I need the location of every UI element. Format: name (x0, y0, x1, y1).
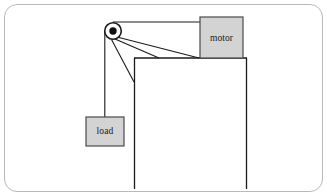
brace-upper-line (117, 37, 199, 58)
pulley-system-diagram: motor load (0, 0, 327, 196)
pulley-hub-icon (109, 27, 116, 34)
load-label: load (97, 126, 114, 136)
figure-root: motor load (0, 0, 327, 196)
motor-label: motor (210, 33, 234, 43)
